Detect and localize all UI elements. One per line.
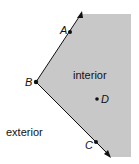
label-exterior: exterior — [6, 127, 43, 138]
point-B — [34, 80, 38, 84]
label-interior: interior — [73, 70, 107, 81]
point-D — [95, 97, 99, 101]
label-C: C — [85, 140, 93, 151]
angle-diagram — [0, 0, 139, 164]
interior-region — [36, 14, 131, 157]
label-B: B — [25, 77, 32, 88]
point-C — [94, 140, 98, 144]
label-A: A — [60, 25, 67, 36]
arrowhead-A-icon — [77, 11, 83, 18]
point-A — [68, 30, 72, 34]
label-D: D — [101, 94, 109, 105]
